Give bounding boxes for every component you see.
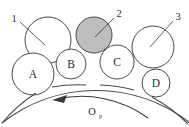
grain-label-d: D [152,77,160,89]
wheel-arc-segment-right [152,97,188,124]
grain-label-b: B [67,58,75,70]
callout-label-1: 1 [11,13,16,24]
grain-circle-2-shaded[interactable] [76,17,112,53]
rotation-direction-arc [57,96,148,118]
rotation-symbol: O [88,106,96,117]
wheel-arc-segment-mid-left [52,85,86,87]
wheel-arc-segment-mid-right [100,85,134,90]
grain-label-c: C [113,56,121,68]
callout-label-2: 2 [116,8,121,19]
grinding-wheel-grain-diagram: A B C D 1 2 3 O p [0,0,189,127]
grain-circle-3[interactable] [132,26,174,68]
rotation-symbol-group: O p [88,106,102,119]
grain-label-a: A [29,68,38,80]
rotation-symbol-subscript: p [99,112,102,119]
grain-group [12,17,174,97]
figure-container: A B C D 1 2 3 O p [0,0,189,127]
callout-label-3: 3 [175,11,180,22]
